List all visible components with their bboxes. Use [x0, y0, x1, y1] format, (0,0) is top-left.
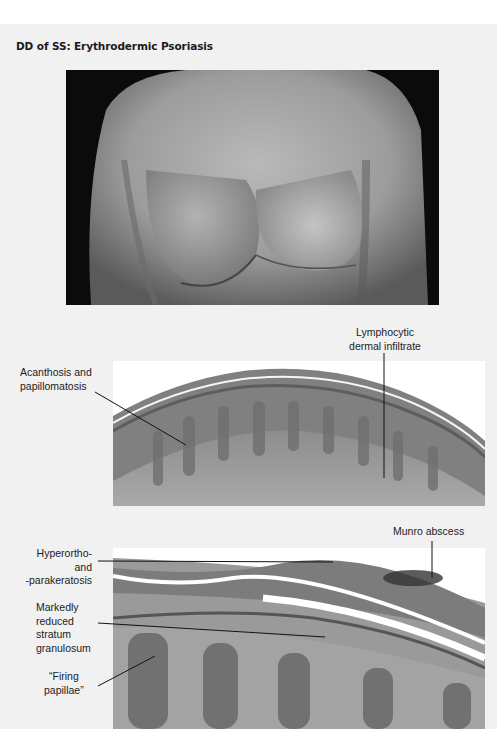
page-title: DD of SS: Erythrodermic Psoriasis: [16, 40, 213, 52]
label-lymphocytic: Lymphocytic dermal infiltrate: [345, 326, 425, 353]
label-granulosum: Markedly reduced stratum granulosum: [36, 601, 91, 655]
label-acanthosis: Acanthosis and papillomatosis: [20, 366, 92, 393]
label-firing: “Firing papillae”: [44, 670, 84, 697]
histology-low-power: [113, 361, 485, 506]
label-munro: Munro abscess: [393, 525, 464, 539]
label-hyperortho: Hyperortho- and -parakeratosis: [20, 547, 92, 588]
clinical-photo: [66, 70, 439, 305]
histology-high-power: [113, 548, 485, 729]
